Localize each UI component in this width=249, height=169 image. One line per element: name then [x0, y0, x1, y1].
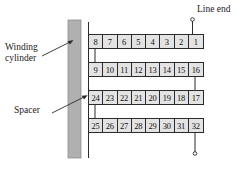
label-line-end: Line end: [197, 4, 231, 15]
layer-cell: 3: [160, 35, 174, 48]
layer-cell: 13: [146, 63, 160, 76]
layer-cell: 15: [175, 63, 189, 76]
layer-cell: 25: [89, 119, 103, 132]
layer-cell: 16: [189, 63, 203, 76]
layer-cell: 10: [103, 63, 117, 76]
layer-row-1: 8 7 6 5 4 3 2 1: [88, 34, 204, 49]
layer-row-4: 25 26 27 28 29 30 31 32: [88, 118, 204, 133]
layer-cell: 5: [132, 35, 146, 48]
layer-cell: 19: [160, 91, 174, 104]
layer-cell: 20: [146, 91, 160, 104]
winding-cylinder-diagram: 8 7 6 5 4 3 2 1 9 10 11 12 13 14 15 16 2…: [0, 0, 249, 169]
layer-row-2: 9 10 11 12 13 14 15 16: [88, 62, 204, 77]
layer-cell: 6: [118, 35, 132, 48]
diagram-vector-layer: [0, 0, 249, 169]
layer-cell: 11: [118, 63, 132, 76]
layer-cell: 24: [89, 91, 103, 104]
label-spacer: Spacer: [14, 105, 40, 116]
layer-cell: 27: [118, 119, 132, 132]
layer-cell: 23: [103, 91, 117, 104]
layer-cell: 29: [146, 119, 160, 132]
layer-cell: 8: [89, 35, 103, 48]
leader-winding-cylinder-line: [42, 41, 72, 56]
layer-cell: 9: [89, 63, 103, 76]
label-winding-cylinder-line2: cylinder: [5, 53, 38, 64]
layer-cell: 26: [103, 119, 117, 132]
layer-cell: 1: [189, 35, 203, 48]
layer-cell: 18: [175, 91, 189, 104]
layer-cell: 12: [132, 63, 146, 76]
layer-cell: 7: [103, 35, 117, 48]
layer-cell: 2: [175, 35, 189, 48]
layer-row-3: 24 23 22 21 20 19 18 17: [88, 90, 204, 105]
line-end-terminal-top-circle: [191, 18, 195, 22]
layer-cell: 22: [118, 91, 132, 104]
layer-cell: 21: [132, 91, 146, 104]
label-winding-cylinder-line1: Winding: [5, 42, 38, 53]
label-winding-cylinder: Winding cylinder: [5, 42, 38, 64]
layer-cell: 30: [160, 119, 174, 132]
layer-cell: 17: [189, 91, 203, 104]
line-end-terminal-bottom-circle: [193, 152, 197, 156]
layer-cell: 31: [175, 119, 189, 132]
layer-cell: 4: [146, 35, 160, 48]
layer-cell: 32: [189, 119, 203, 132]
layer-cell: 14: [160, 63, 174, 76]
layer-cell: 28: [132, 119, 146, 132]
